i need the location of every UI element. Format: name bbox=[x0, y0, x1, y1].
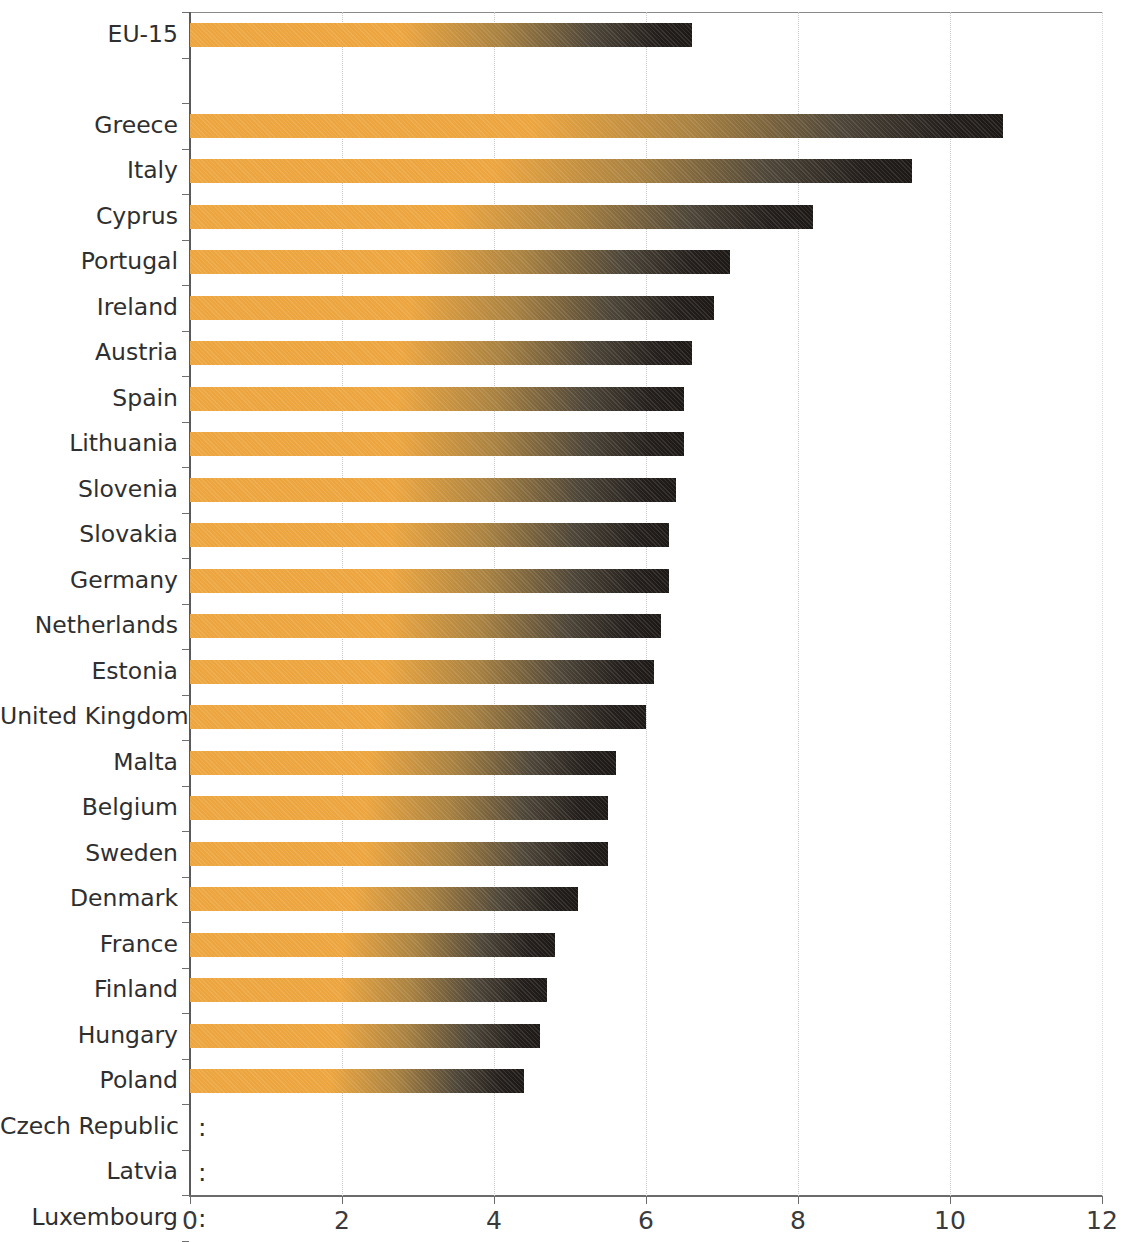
category-label: Sweden bbox=[0, 842, 178, 866]
y-axis-tick bbox=[182, 740, 189, 741]
category-label: Luxembourg bbox=[0, 1206, 178, 1230]
y-axis-tick bbox=[182, 513, 189, 514]
category-label: Italy bbox=[0, 160, 178, 184]
bar bbox=[190, 660, 654, 684]
bar bbox=[190, 296, 714, 320]
category-label: Spain bbox=[0, 387, 178, 411]
x-axis-tick bbox=[494, 1196, 495, 1204]
category-label: Denmark bbox=[0, 888, 178, 912]
gridline bbox=[950, 12, 951, 1196]
gridline bbox=[342, 12, 343, 1196]
bar bbox=[190, 614, 661, 638]
x-axis-tick-label: 2 bbox=[334, 1206, 350, 1235]
bar bbox=[190, 23, 692, 47]
bar bbox=[190, 887, 578, 911]
y-axis-tick bbox=[182, 376, 189, 377]
bar bbox=[190, 933, 555, 957]
missing-value-marker: : bbox=[198, 1160, 206, 1185]
missing-value-marker: : bbox=[198, 1205, 206, 1230]
bar bbox=[190, 978, 547, 1002]
category-label: Austria bbox=[0, 342, 178, 366]
y-axis-tick bbox=[182, 831, 189, 832]
x-axis-tick bbox=[950, 1196, 951, 1204]
bar bbox=[190, 432, 684, 456]
bar bbox=[190, 114, 1003, 138]
x-axis-tick bbox=[798, 1196, 799, 1204]
category-label: EU-15 bbox=[0, 23, 178, 47]
gridline bbox=[646, 12, 647, 1196]
y-axis-tick bbox=[182, 1150, 189, 1151]
bar bbox=[190, 523, 669, 547]
y-axis-tick bbox=[182, 1104, 189, 1105]
category-label: Finland bbox=[0, 979, 178, 1003]
bar bbox=[190, 705, 646, 729]
category-label: Germany bbox=[0, 569, 178, 593]
y-axis-tick bbox=[182, 194, 189, 195]
y-axis-tick bbox=[182, 786, 189, 787]
x-axis-tick bbox=[342, 1196, 343, 1204]
bar bbox=[190, 159, 912, 183]
category-label: Portugal bbox=[0, 251, 178, 275]
bar bbox=[190, 1024, 540, 1048]
y-axis-tick bbox=[182, 285, 189, 286]
category-label: Czech Republic bbox=[0, 1115, 178, 1139]
x-axis-tick-label: 8 bbox=[790, 1206, 806, 1235]
bar bbox=[190, 250, 730, 274]
bar bbox=[190, 751, 616, 775]
category-label: Greece bbox=[0, 114, 178, 138]
x-axis-tick-label: 0 bbox=[182, 1206, 198, 1235]
bar bbox=[190, 387, 684, 411]
bar bbox=[190, 341, 692, 365]
y-axis-tick bbox=[182, 12, 189, 13]
category-label: United Kingdom bbox=[0, 706, 178, 730]
category-label: Malta bbox=[0, 751, 178, 775]
bar bbox=[190, 478, 676, 502]
category-label: Slovakia bbox=[0, 524, 178, 548]
gridline bbox=[494, 12, 495, 1196]
category-label: Poland bbox=[0, 1070, 178, 1094]
x-axis-tick bbox=[190, 1196, 191, 1204]
category-label: France bbox=[0, 933, 178, 957]
y-axis-tick bbox=[182, 968, 189, 969]
y-axis-tick bbox=[182, 922, 189, 923]
y-axis-tick bbox=[182, 604, 189, 605]
y-axis-tick bbox=[182, 1013, 189, 1014]
category-label: Lithuania bbox=[0, 433, 178, 457]
y-axis-tick bbox=[182, 1195, 189, 1196]
missing-value-marker: : bbox=[198, 1114, 206, 1139]
y-axis-line bbox=[189, 12, 191, 1196]
y-axis-tick bbox=[182, 467, 189, 468]
y-axis-tick bbox=[182, 695, 189, 696]
bar bbox=[190, 569, 669, 593]
x-axis-tick-label: 6 bbox=[638, 1206, 654, 1235]
gridline bbox=[1102, 12, 1103, 1196]
y-axis-tick bbox=[182, 240, 189, 241]
category-label: Slovenia bbox=[0, 478, 178, 502]
y-axis-tick bbox=[182, 149, 189, 150]
y-axis-tick bbox=[182, 58, 189, 59]
bar bbox=[190, 205, 813, 229]
y-axis-tick bbox=[182, 1059, 189, 1060]
category-label: Estonia bbox=[0, 660, 178, 684]
x-axis-tick-label: 4 bbox=[486, 1206, 502, 1235]
y-axis-tick bbox=[182, 558, 189, 559]
bar bbox=[190, 842, 608, 866]
bar bbox=[190, 1069, 524, 1093]
y-axis-tick bbox=[182, 877, 189, 878]
category-label: Ireland bbox=[0, 296, 178, 320]
x-axis-tick-label: 10 bbox=[934, 1206, 966, 1235]
x-axis-tick bbox=[646, 1196, 647, 1204]
x-axis-tick-label: 12 bbox=[1086, 1206, 1118, 1235]
y-axis-tick bbox=[182, 422, 189, 423]
bar bbox=[190, 796, 608, 820]
category-label: Belgium bbox=[0, 797, 178, 821]
category-label: Latvia bbox=[0, 1161, 178, 1185]
gridline bbox=[798, 12, 799, 1196]
x-axis-tick bbox=[1102, 1196, 1103, 1204]
y-axis-tick bbox=[182, 331, 189, 332]
category-label: Netherlands bbox=[0, 615, 178, 639]
y-axis-tick bbox=[182, 649, 189, 650]
category-label: Hungary bbox=[0, 1024, 178, 1048]
y-axis-tick bbox=[182, 103, 189, 104]
